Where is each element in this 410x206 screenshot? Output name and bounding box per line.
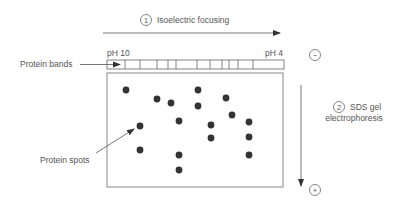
step2-number: 2 [337,103,341,112]
positive-electrode: + [310,185,321,196]
protein-spot [176,118,183,125]
step1-heading: 1 Isoelectric focusing [141,15,230,26]
protein-spot [246,152,253,159]
protein-spot [195,103,202,110]
positive-symbol: + [313,186,318,195]
step2-label-line2: electrophoresis [325,113,383,123]
protein-spot [176,167,183,174]
step1-number: 1 [144,16,148,25]
protein-spot [246,119,253,126]
negative-electrode: − [310,50,321,61]
step2-label-line1: SDS gel [350,102,381,112]
protein-bands-label: Protein bands [20,59,72,69]
ph-left-label: pH 10 [107,48,130,58]
protein-spot [154,96,161,103]
protein-spot [137,123,144,130]
negative-symbol: − [313,51,318,60]
protein-spot [246,134,253,141]
protein-spot [176,152,183,159]
protein-spot [208,122,215,129]
protein-spot [208,135,215,142]
protein-spot [229,112,236,119]
protein-spot [223,95,230,102]
protein-spot [137,147,144,154]
step2-heading: 2 SDS gel electrophoresis [325,102,383,124]
ph-right-label: pH 4 [265,48,283,58]
step1-label: Isoelectric focusing [157,15,230,25]
protein-spot [195,87,202,94]
ief-strip [107,60,284,69]
protein-spot [168,100,175,107]
2d-electrophoresis-diagram: 1 Isoelectric focusing pH 10 pH 4 Protei… [0,0,410,206]
protein-spot [123,87,130,94]
protein-spots-label: Protein spots [40,155,90,165]
